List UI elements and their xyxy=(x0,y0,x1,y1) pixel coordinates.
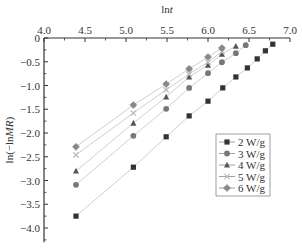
x-tick-label: 6.0 xyxy=(201,24,215,36)
y-tick-label: −4.0 xyxy=(20,222,40,234)
axes: 4.04.55.05.56.06.57.00−0.5−1.0−1.5−2.0−2… xyxy=(3,3,297,242)
y-tick-label: −3.0 xyxy=(20,175,40,187)
y-axis-title: ln(−lnMR) xyxy=(3,117,16,164)
square-marker-icon xyxy=(245,65,250,70)
x-tick-label: 6.5 xyxy=(242,24,256,36)
legend-label: 5 W/g xyxy=(238,171,265,183)
legend: 2 W/g3 W/g4 W/g5 W/g6 W/g xyxy=(216,134,270,196)
circle-marker-icon xyxy=(233,50,239,56)
square-marker-icon xyxy=(187,113,192,118)
y-tick-label: −2.5 xyxy=(20,151,40,163)
series-line xyxy=(76,46,236,171)
triangle-marker-icon xyxy=(130,120,136,126)
square-marker-icon xyxy=(73,214,78,219)
circle-marker-icon xyxy=(130,133,136,139)
square-legend-icon xyxy=(224,139,229,144)
y-tick-label: −0.5 xyxy=(20,56,40,68)
square-marker-icon xyxy=(263,48,268,53)
square-marker-icon xyxy=(255,56,260,61)
circle-marker-icon xyxy=(163,106,169,112)
square-marker-icon xyxy=(164,134,169,139)
y-tick-label: 0 xyxy=(35,32,41,44)
series-line xyxy=(76,48,222,147)
circle-legend-icon xyxy=(224,151,230,157)
y-tick-label: −1.0 xyxy=(20,80,40,92)
triangle-marker-icon xyxy=(233,43,239,49)
legend-label: 2 W/g xyxy=(238,136,265,148)
x-tick-label: 4.5 xyxy=(78,24,92,36)
x-tick-label: 5.5 xyxy=(160,24,174,36)
square-marker-icon xyxy=(220,85,225,90)
circle-marker-icon xyxy=(219,59,225,65)
y-tick-label: −3.5 xyxy=(20,198,40,210)
y-tick-label: −1.5 xyxy=(20,103,40,115)
x-tick-label: 7.0 xyxy=(283,24,297,36)
legend-label: 4 W/g xyxy=(238,159,265,171)
square-marker-icon xyxy=(131,165,136,170)
series-6-w-g xyxy=(72,44,226,150)
circle-marker-icon xyxy=(73,182,79,188)
series-4-w-g xyxy=(73,43,239,174)
square-marker-icon xyxy=(270,42,275,47)
legend-label: 3 W/g xyxy=(238,148,265,160)
x-tick-label: 5.0 xyxy=(119,24,133,36)
y-tick-label: −2.0 xyxy=(20,127,40,139)
circle-marker-icon xyxy=(243,42,249,48)
square-marker-icon xyxy=(233,74,238,79)
series-line xyxy=(76,52,222,155)
circle-marker-icon xyxy=(205,70,211,76)
legend-label: 6 W/g xyxy=(238,182,265,194)
chart: 4.04.55.05.56.06.57.00−0.5−1.0−1.5−2.0−2… xyxy=(0,0,302,251)
circle-marker-icon xyxy=(186,85,192,91)
square-marker-icon xyxy=(205,99,210,104)
series-5-w-g xyxy=(73,49,224,157)
x-axis-title: lnt xyxy=(161,3,174,15)
